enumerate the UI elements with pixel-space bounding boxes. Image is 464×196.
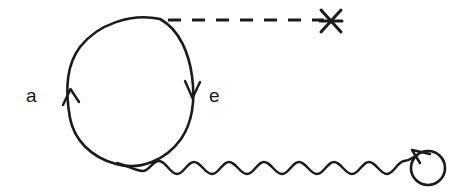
left-arrow-up-icon bbox=[63, 89, 79, 105]
cross-vertex-icon bbox=[320, 10, 342, 32]
label-a: a bbox=[26, 86, 37, 105]
label-e: e bbox=[209, 86, 220, 105]
photon-propagator bbox=[117, 157, 414, 174]
electron-loop bbox=[67, 17, 193, 166]
feynman-diagram-figure: a e bbox=[0, 0, 464, 196]
diagram-canvas bbox=[0, 0, 464, 196]
